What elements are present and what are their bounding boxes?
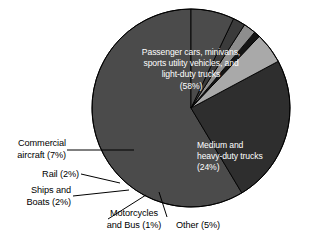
slice-label-ships-boats: Ships and Boats (2%) (0, 184, 71, 208)
slice-label-commercial-aircraft: Commercial aircraft (7%) (0, 137, 66, 161)
leader-line-ships-boats (73, 190, 129, 196)
slice-label-other: Other (5%) (176, 219, 256, 231)
slice-label-rail: Rail (2%) (0, 168, 79, 180)
pie-slice-group (92, 9, 290, 207)
pie-chart: Passenger cars, minivans, sports utility… (0, 0, 319, 248)
slice-label-passenger-cars: Passenger cars, minivans, sports utility… (100, 47, 282, 92)
slice-label-medium-heavy-trucks: Medium and heavy-duty trucks (24%) (197, 140, 291, 174)
slice-label-motorcycles-bus: Motorcycles and Bus (1%) (96, 207, 172, 231)
leader-line-rail (81, 174, 120, 183)
